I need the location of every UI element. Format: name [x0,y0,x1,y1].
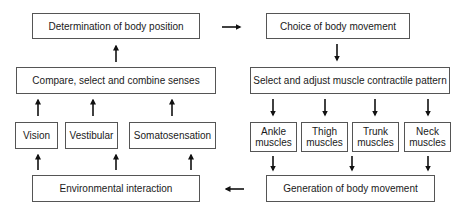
flow-arrows [0,0,465,212]
